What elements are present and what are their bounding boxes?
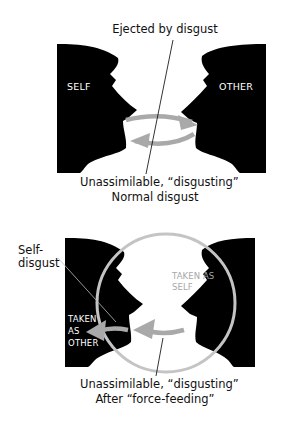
taken-as-other-label-line2: AS [68, 326, 80, 336]
unassimilable-label-top: Unassimilable, “disgusting” [80, 176, 230, 189]
taken-as-self-label-line2: SELF [172, 282, 193, 292]
unassimilable-label-bottom: Unassimilable, “disgusting” [80, 378, 230, 391]
ejected-by-disgust-label: Ejected by disgust [110, 23, 220, 36]
self-head-silhouette [57, 44, 137, 173]
force-feeding-caption: After “force-feeding” [90, 393, 220, 406]
self-disgust-label-line2: disgust [18, 257, 60, 270]
taken-as-other-label-line3: OTHER [68, 338, 99, 348]
taken-as-other-label-line1: TAKEN [68, 314, 97, 324]
other-label: OTHER [219, 80, 253, 93]
bottom-panel [58, 234, 255, 376]
top-panel [57, 40, 266, 174]
diagram-canvas [0, 0, 281, 424]
force-feed-arrow-head [133, 319, 155, 339]
arrow-to-self-head [130, 133, 150, 148]
normal-disgust-caption: Normal disgust [100, 191, 210, 204]
other-head-silhouette [181, 44, 266, 173]
ejected-leader-line [146, 40, 173, 174]
taken-as-self-label-line1: TAKEN AS [172, 271, 214, 281]
self-label: SELF [67, 80, 91, 93]
